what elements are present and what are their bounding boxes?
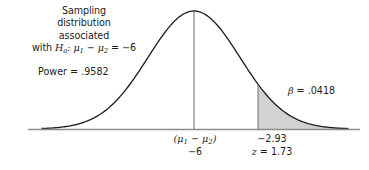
caption-hypothesis-line: with Ha: μ1 − μ2 = −6 <box>8 42 160 57</box>
hyp-mu-first: : μ <box>67 42 79 53</box>
hyp-mu-second: − μ <box>84 42 104 53</box>
z-value-text: = 1.73 <box>257 146 293 157</box>
center-tick-value: −6 <box>160 146 230 157</box>
caption-line-1: Sampling <box>8 5 160 17</box>
beta-value-text: = .0418 <box>294 85 336 96</box>
beta-annotation: β = .0418 <box>288 85 335 96</box>
center-tick-label: (μ1 − μ2) <box>160 133 230 146</box>
caption-block: Sampling distribution associated with Ha… <box>8 5 160 57</box>
caption-line-2: distribution <box>8 17 160 29</box>
center-mu-minus: − μ <box>188 133 208 144</box>
hyp-equals-value: = −6 <box>108 42 136 53</box>
hyp-prefix: with <box>32 42 55 53</box>
center-mu-open: (μ <box>174 133 184 144</box>
critical-tick-value: −2.93 <box>240 133 304 144</box>
power-annotation: Power = .9582 <box>38 66 109 77</box>
critical-tick-z-value: z = 1.73 <box>240 146 304 157</box>
caption-line-3: associated <box>8 30 160 42</box>
center-mu-close: ) <box>213 133 217 144</box>
